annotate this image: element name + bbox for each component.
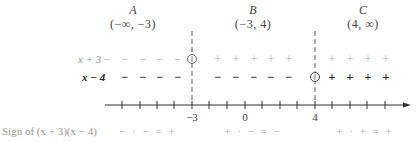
factor-sign: + bbox=[268, 52, 275, 67]
sign-product: + · + = + bbox=[336, 125, 393, 137]
factor-sign: + bbox=[347, 52, 354, 67]
factor-sign: − bbox=[251, 70, 258, 85]
factor-sign: − bbox=[215, 70, 222, 85]
factor-sign: − bbox=[175, 52, 182, 67]
tick-label: 4 bbox=[312, 111, 318, 123]
factor-sign: + bbox=[365, 70, 372, 85]
factor-sign: + bbox=[329, 70, 336, 85]
sign-product: − · − = + bbox=[119, 125, 176, 137]
tick-label: 0 bbox=[242, 111, 248, 123]
interval-letter: C bbox=[359, 3, 367, 18]
factor-sign: − bbox=[286, 70, 293, 85]
interval-letter: B bbox=[249, 3, 256, 18]
factor-sign: + bbox=[347, 70, 354, 85]
interval-range: (−3, 4) bbox=[235, 17, 271, 32]
tick-label: −3 bbox=[186, 111, 198, 123]
factor-label: x − 4 bbox=[82, 71, 105, 83]
factor-sign: − bbox=[122, 70, 129, 85]
factor-sign: + bbox=[215, 52, 222, 67]
factor-sign: − bbox=[104, 52, 111, 67]
interval-range: (−∞, −3) bbox=[110, 17, 156, 32]
factor-sign: − bbox=[233, 70, 240, 85]
factor-sign: + bbox=[329, 52, 336, 67]
factor-sign: − bbox=[175, 70, 182, 85]
factor-sign: − bbox=[122, 52, 129, 67]
factor-sign: + bbox=[383, 70, 390, 85]
sign-row-label: Sign of (x + 3)(x − 4) bbox=[2, 125, 97, 137]
factor-sign: + bbox=[251, 52, 258, 67]
interval-range: (4, ∞) bbox=[347, 17, 379, 32]
arrow-right-icon bbox=[403, 103, 411, 108]
factor-sign: − bbox=[268, 70, 275, 85]
sign-product: + · − = − bbox=[224, 125, 281, 137]
factor-sign: − bbox=[157, 52, 164, 67]
factor-label: x + 3 bbox=[78, 53, 101, 65]
factor-sign: − bbox=[157, 70, 164, 85]
factor-sign: + bbox=[365, 52, 372, 67]
factor-sign: − bbox=[140, 70, 147, 85]
factor-sign: + bbox=[233, 52, 240, 67]
interval-letter: A bbox=[129, 3, 136, 18]
factor-sign: + bbox=[286, 52, 293, 67]
factor-sign: − bbox=[140, 52, 147, 67]
factor-sign: + bbox=[383, 52, 390, 67]
